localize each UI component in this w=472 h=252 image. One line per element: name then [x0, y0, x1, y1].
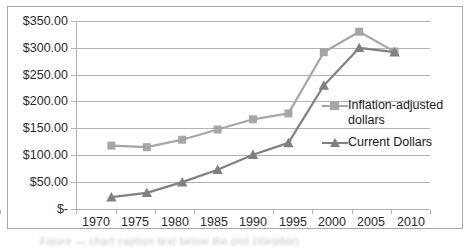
x-tick-4 [0, 210, 1, 214]
chart-figure: $350.00 $300.00 $250.00 $200.00 $150.00 … [0, 0, 472, 252]
y-tick-350 [71, 21, 76, 22]
gridline-350 [76, 21, 430, 22]
x-tick-5 [273, 210, 274, 214]
x-axis-label-1975: 1975 [121, 216, 149, 229]
legend-label-current-dollars: Current Dollars [348, 135, 432, 150]
x-tick-3 [194, 210, 195, 214]
y-axis-label-150: $150.00 [0, 122, 68, 135]
y-axis-label-350: $350.00 [0, 15, 68, 28]
x-tick-8 [391, 210, 392, 214]
x-axis-label-1990: 1990 [239, 216, 267, 229]
x-axis-label-1985: 1985 [200, 216, 228, 229]
x-tick-0 [76, 210, 77, 214]
triangle-marker-icon [322, 136, 348, 150]
y-axis-label-200: $200.00 [0, 95, 68, 108]
x-tick-7 [352, 210, 353, 214]
legend-item-inflation-adjusted[interactable]: Inflation-adjusted dollars [322, 98, 458, 128]
y-tick-100 [71, 155, 76, 156]
y-axis-label-300: $300.00 [0, 42, 68, 55]
x-axis-label-1980: 1980 [161, 216, 189, 229]
figure-caption-smudged: Figure — chart caption text below the pl… [40, 236, 370, 246]
x-axis-label-2010: 2010 [397, 216, 425, 229]
x-axis-label-1970: 1970 [82, 216, 110, 229]
x-tick-1 [116, 210, 117, 214]
y-axis-label-50: $50.00 [0, 176, 68, 189]
gridline-300 [76, 48, 430, 49]
x-axis-label-2000: 2000 [318, 216, 346, 229]
y-axis-line [76, 21, 77, 209]
gridline-250 [76, 75, 430, 76]
y-axis-label-100: $100.00 [0, 149, 68, 162]
x-tick-2 [155, 210, 156, 214]
legend-item-current-dollars[interactable]: Current Dollars [322, 135, 458, 150]
x-tick-9 [430, 210, 431, 214]
x-axis-label-1995: 1995 [279, 216, 307, 229]
chart-legend: Inflation-adjusted dollars Current Dolla… [322, 98, 458, 157]
legend-label-inflation-adjusted: Inflation-adjusted dollars [348, 98, 443, 128]
x-tick-6 [312, 210, 313, 214]
y-axis-label-0: $- [0, 203, 68, 216]
gridline-50 [76, 182, 430, 183]
y-tick-250 [71, 75, 76, 76]
y-tick-300 [71, 48, 76, 49]
y-axis-label-250: $250.00 [0, 69, 68, 82]
y-tick-150 [71, 128, 76, 129]
x-axis-line [76, 209, 430, 210]
x-axis-label-2005: 2005 [357, 216, 385, 229]
y-tick-200 [71, 101, 76, 102]
y-tick-50 [71, 182, 76, 183]
square-marker-icon [322, 99, 348, 113]
